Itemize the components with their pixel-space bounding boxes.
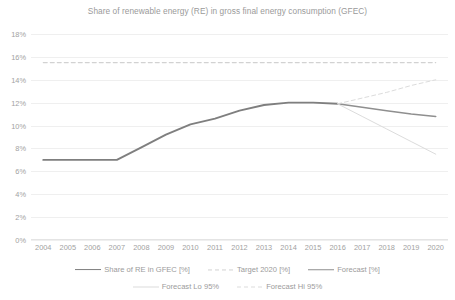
- legend-label: Forecast Hi 95%: [266, 282, 322, 291]
- x-axis-tick-label: 2016: [329, 243, 345, 252]
- legend-item[interactable]: Forecast Hi 95%: [237, 282, 322, 291]
- x-axis-tick-label: 2019: [403, 243, 419, 252]
- x-axis-tick-label: 2004: [35, 243, 51, 252]
- x-axis-tick-label: 2012: [231, 243, 247, 252]
- x-axis-tick-label: 2006: [84, 243, 100, 252]
- y-axis-tick-label: 0%: [0, 236, 26, 245]
- x-axis-tick-label: 2014: [280, 243, 296, 252]
- legend-row: Share of RE in GFEC [%]Target 2020 [%]Fo…: [0, 261, 455, 278]
- chart-legend: Share of RE in GFEC [%]Target 2020 [%]Fo…: [0, 261, 455, 295]
- y-axis-tick-label: 16%: [0, 52, 26, 61]
- legend-label: Target 2020 [%]: [237, 265, 290, 274]
- x-axis-tick-label: 2005: [60, 243, 76, 252]
- y-axis-tick-label: 18%: [0, 30, 26, 39]
- y-axis-tick-label: 4%: [0, 190, 26, 199]
- legend-item[interactable]: Share of RE in GFEC [%]: [75, 265, 190, 274]
- x-axis-tick-label: 2020: [428, 243, 444, 252]
- legend-item[interactable]: Forecast [%]: [308, 265, 380, 274]
- x-axis-tick-label: 2015: [305, 243, 321, 252]
- renewable-energy-chart: Share of renewable energy (RE) in gross …: [0, 0, 455, 300]
- series-layer: [31, 34, 448, 240]
- x-axis-tick-label: 2017: [354, 243, 370, 252]
- legend-swatch: [208, 265, 234, 274]
- x-axis-tick-labels: 2004200520062007200820092010201120122013…: [31, 243, 448, 257]
- legend-item[interactable]: Target 2020 [%]: [208, 265, 290, 274]
- legend-row: Forecast Lo 95%Forecast Hi 95%: [0, 278, 455, 295]
- y-axis-tick-label: 10%: [0, 121, 26, 130]
- legend-swatch: [133, 282, 159, 291]
- y-axis-tick-label: 2%: [0, 213, 26, 222]
- legend-label: Forecast [%]: [337, 265, 380, 274]
- y-axis-tick-label: 12%: [0, 98, 26, 107]
- y-axis-tick-label: 8%: [0, 144, 26, 153]
- legend-label: Share of RE in GFEC [%]: [104, 265, 190, 274]
- y-axis-tick-label: 6%: [0, 167, 26, 176]
- legend-item[interactable]: Forecast Lo 95%: [133, 282, 219, 291]
- x-axis-tick-label: 2010: [182, 243, 198, 252]
- x-axis-tick-label: 2009: [158, 243, 174, 252]
- legend-label: Forecast Lo 95%: [162, 282, 219, 291]
- legend-swatch: [308, 265, 334, 274]
- series-line: [338, 80, 436, 104]
- series-line: [338, 104, 436, 117]
- chart-title: Share of renewable energy (RE) in gross …: [0, 6, 455, 16]
- x-axis-tick-label: 2008: [133, 243, 149, 252]
- x-axis-tick-label: 2013: [256, 243, 272, 252]
- x-axis-tick-label: 2007: [109, 243, 125, 252]
- x-axis-tick-label: 2018: [378, 243, 394, 252]
- y-axis-tick-label: 14%: [0, 75, 26, 84]
- legend-swatch: [237, 282, 263, 291]
- x-axis-tick-label: 2011: [207, 243, 223, 252]
- gridline: [31, 240, 448, 241]
- legend-swatch: [75, 265, 101, 274]
- x-axis-baseline: [31, 239, 448, 240]
- series-line: [43, 103, 337, 160]
- plot-area: [31, 34, 448, 240]
